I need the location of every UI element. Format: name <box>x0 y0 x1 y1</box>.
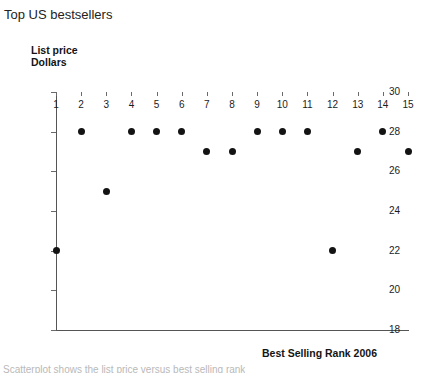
scatter-plot-area: 18202224262830123456789101112131415 <box>56 92 408 330</box>
y-axis-title-line-2: Dollars <box>31 56 78 68</box>
data-point <box>329 247 336 254</box>
x-axis-line <box>56 330 409 331</box>
y-axis-title-line-1: List price <box>31 44 78 56</box>
data-point <box>229 148 236 155</box>
x-axis-tick <box>282 92 283 96</box>
y-axis-tick-label: 28 <box>389 127 400 137</box>
data-point <box>379 128 386 135</box>
x-axis-tick <box>333 92 334 96</box>
x-axis-tick-label: 12 <box>323 99 343 110</box>
y-axis-tick <box>51 171 56 172</box>
x-axis-tick-label: 14 <box>373 99 393 110</box>
y-axis-tick <box>51 132 56 133</box>
x-axis-tick <box>182 92 183 96</box>
y-axis-tick-label: 20 <box>389 285 400 295</box>
x-axis-tick <box>257 92 258 96</box>
x-axis-tick-label: 13 <box>348 99 368 110</box>
x-axis-tick <box>232 92 233 96</box>
y-axis-tick-label: 24 <box>389 206 400 216</box>
data-point <box>354 148 361 155</box>
data-point <box>405 148 412 155</box>
x-axis-tick-label: 8 <box>222 99 242 110</box>
x-axis-tick-label: 2 <box>71 99 91 110</box>
x-axis-tick-label: 3 <box>96 99 116 110</box>
x-axis-tick-label: 5 <box>147 99 167 110</box>
y-axis-tick <box>51 330 56 331</box>
x-axis-tick <box>383 92 384 96</box>
y-axis-tick-label: 22 <box>389 246 400 256</box>
x-axis-tick <box>358 92 359 96</box>
x-axis-tick <box>157 92 158 96</box>
x-axis-tick-label: 15 <box>398 99 418 110</box>
y-axis-tick-label: 30 <box>389 87 400 97</box>
data-point <box>279 128 286 135</box>
x-axis-tick <box>81 92 82 96</box>
y-axis-tick-label: 18 <box>389 325 400 335</box>
data-point <box>128 128 135 135</box>
data-point <box>178 128 185 135</box>
x-axis-tick-label: 4 <box>121 99 141 110</box>
data-point <box>203 148 210 155</box>
x-axis-tick <box>56 92 57 96</box>
x-axis-tick-label: 10 <box>272 99 292 110</box>
bottom-caption: Scatterplot shows the list price versus … <box>3 364 245 373</box>
data-point <box>78 128 85 135</box>
data-point <box>153 128 160 135</box>
x-axis-tick <box>207 92 208 96</box>
x-axis-tick <box>307 92 308 96</box>
x-axis-tick-label: 9 <box>247 99 267 110</box>
x-axis-tick-label: 11 <box>297 99 317 110</box>
x-axis-tick-label: 6 <box>172 99 192 110</box>
x-axis-tick-label: 1 <box>46 99 66 110</box>
data-point <box>304 128 311 135</box>
y-axis-tick <box>51 290 56 291</box>
y-axis-tick <box>51 211 56 212</box>
x-axis-tick <box>106 92 107 96</box>
y-axis-title: List price Dollars <box>31 44 78 68</box>
data-point <box>103 188 110 195</box>
data-point <box>53 247 60 254</box>
x-axis-tick-label: 7 <box>197 99 217 110</box>
x-axis-title: Best Selling Rank 2006 <box>262 347 377 359</box>
x-axis-tick <box>131 92 132 96</box>
page-title: Top US bestsellers <box>4 7 112 22</box>
data-point <box>254 128 261 135</box>
y-axis-tick-label: 26 <box>389 166 400 176</box>
x-axis-tick <box>408 92 409 96</box>
